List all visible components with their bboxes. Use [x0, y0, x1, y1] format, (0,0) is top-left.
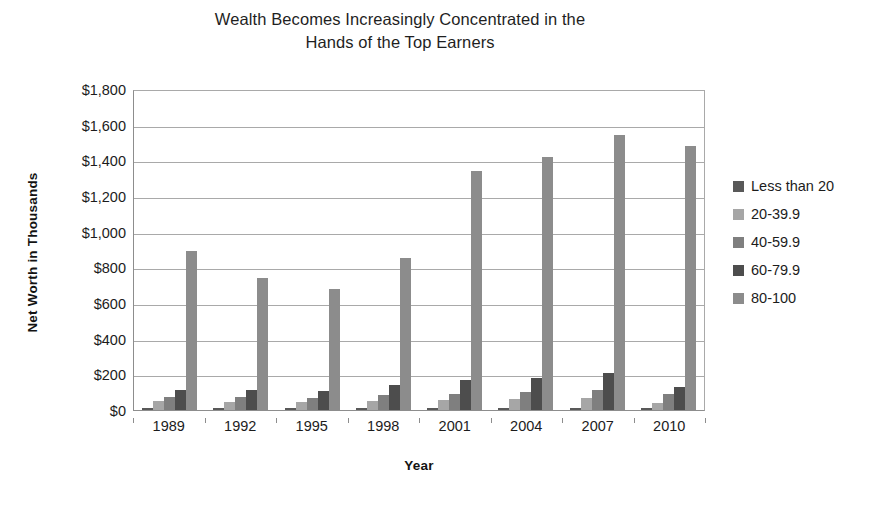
y-axis-tick-label: $800 — [40, 260, 126, 276]
chart-title: Wealth Becomes Increasingly Concentrated… — [120, 8, 680, 54]
bar[interactable] — [652, 403, 663, 410]
legend-item-label: 40-59.9 — [751, 234, 800, 250]
x-axis-tick-label: 1992 — [205, 418, 277, 444]
bar[interactable] — [685, 146, 696, 410]
bar[interactable] — [153, 401, 164, 410]
bar[interactable] — [246, 390, 257, 410]
bar[interactable] — [460, 380, 471, 410]
y-axis-tick-label: $1,800 — [40, 82, 126, 98]
legend-item[interactable]: 80-100 — [733, 284, 885, 312]
bar[interactable] — [296, 402, 307, 410]
legend-item[interactable]: 20-39.9 — [733, 200, 885, 228]
x-axis-tick-mark — [205, 418, 206, 423]
bar[interactable] — [542, 157, 553, 410]
x-axis-tick-mark — [276, 418, 277, 423]
bar[interactable] — [307, 398, 318, 410]
bar[interactable] — [224, 402, 235, 410]
bar[interactable] — [498, 408, 509, 410]
legend-item[interactable]: Less than 20 — [733, 172, 885, 200]
bar[interactable] — [570, 408, 581, 410]
bar[interactable] — [427, 408, 438, 410]
bar[interactable] — [257, 278, 268, 410]
x-axis-tick-label: 1989 — [133, 418, 205, 444]
y-axis-tick-label: $1,000 — [40, 225, 126, 241]
bar[interactable] — [378, 395, 389, 410]
chart-legend: Less than 2020-39.940-59.960-79.980-100 — [733, 172, 885, 312]
legend-item-label: 80-100 — [751, 290, 796, 306]
y-axis-tick-label: $400 — [40, 332, 126, 348]
bar[interactable] — [663, 394, 674, 410]
legend-item-label: 60-79.9 — [751, 262, 800, 278]
legend-swatch-icon — [733, 265, 744, 276]
bar[interactable] — [367, 401, 378, 410]
bar[interactable] — [603, 373, 614, 410]
legend-item-label: 20-39.9 — [751, 206, 800, 222]
bar[interactable] — [438, 400, 449, 410]
bar-group — [419, 91, 490, 410]
legend-swatch-icon — [733, 209, 744, 220]
bar[interactable] — [509, 399, 520, 410]
bar[interactable] — [285, 408, 296, 410]
bar[interactable] — [641, 408, 652, 410]
legend-swatch-icon — [733, 237, 744, 248]
x-axis-tick-mark — [419, 418, 420, 423]
x-axis-title: Year — [133, 458, 705, 473]
plot-area — [133, 90, 705, 411]
bars-container — [134, 91, 704, 410]
x-axis-tick-label: 2004 — [491, 418, 563, 444]
bar[interactable] — [581, 398, 592, 410]
x-axis-tick-mark — [133, 418, 134, 423]
y-axis-tick-label: $1,200 — [40, 189, 126, 205]
bar-group — [205, 91, 276, 410]
bar-group — [562, 91, 633, 410]
bar[interactable] — [213, 408, 224, 410]
legend-swatch-icon — [733, 293, 744, 304]
bar-group — [348, 91, 419, 410]
legend-item[interactable]: 40-59.9 — [733, 228, 885, 256]
y-axis-tick-label: $200 — [40, 367, 126, 383]
y-axis-tick-label: $0 — [40, 403, 126, 419]
legend-item-label: Less than 20 — [751, 178, 834, 194]
bar[interactable] — [175, 390, 186, 410]
bar-group — [277, 91, 348, 410]
x-axis-tick-mark — [705, 418, 706, 423]
bar-chart: Wealth Becomes Increasingly Concentrated… — [0, 0, 893, 507]
bar[interactable] — [235, 397, 246, 410]
y-axis-tick-label: $1,400 — [40, 153, 126, 169]
bar-group — [490, 91, 561, 410]
x-axis-tick-mark — [562, 418, 563, 423]
x-axis-tick-label: 1995 — [276, 418, 348, 444]
x-axis-tick-label: 2001 — [419, 418, 491, 444]
bar[interactable] — [329, 289, 340, 410]
x-axis-tick-mark — [348, 418, 349, 423]
bar[interactable] — [318, 391, 329, 410]
bar-group — [633, 91, 704, 410]
bar[interactable] — [389, 385, 400, 411]
legend-item[interactable]: 60-79.9 — [733, 256, 885, 284]
y-axis-tick-label: $600 — [40, 296, 126, 312]
y-axis-tick-label: $1,600 — [40, 118, 126, 134]
bar-group — [134, 91, 205, 410]
bar[interactable] — [400, 258, 411, 410]
bar[interactable] — [186, 251, 197, 410]
bar[interactable] — [531, 378, 542, 410]
x-axis-tick-label: 2010 — [634, 418, 706, 444]
x-axis-tick-mark — [491, 418, 492, 423]
bar[interactable] — [142, 408, 153, 410]
x-axis-tick-label: 2007 — [562, 418, 634, 444]
bar[interactable] — [614, 135, 625, 410]
bar[interactable] — [164, 397, 175, 410]
x-axis-tick-mark — [634, 418, 635, 423]
bar[interactable] — [449, 394, 460, 410]
bar[interactable] — [520, 392, 531, 410]
bar[interactable] — [674, 387, 685, 410]
legend-swatch-icon — [733, 181, 744, 192]
x-axis-tick-label: 1998 — [348, 418, 420, 444]
bar[interactable] — [471, 171, 482, 410]
bar[interactable] — [592, 390, 603, 411]
y-axis-tick-labels: $1,800$1,600$1,400$1,200$1,000$800$600$4… — [36, 90, 126, 411]
bar[interactable] — [356, 408, 367, 410]
x-axis-tick-labels: 19891992199519982001200420072010 — [133, 418, 705, 444]
